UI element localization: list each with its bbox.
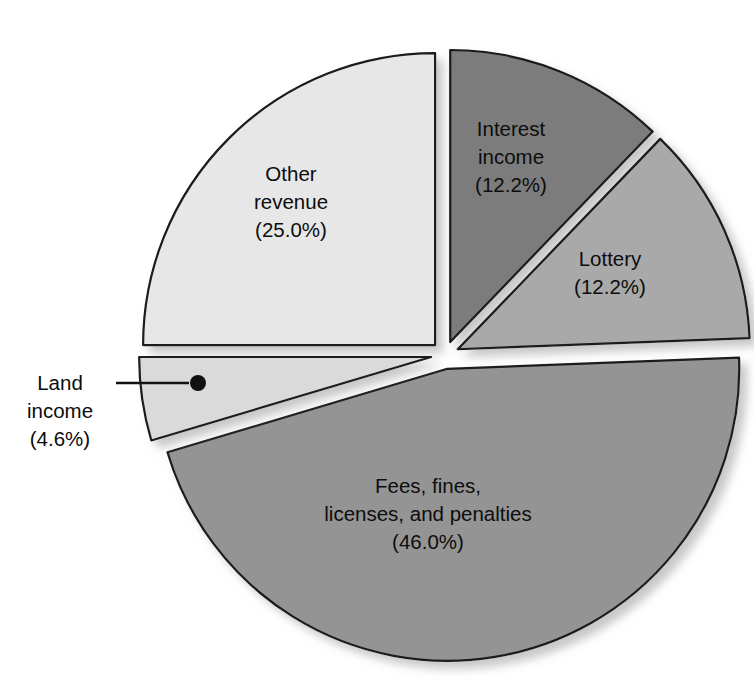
label-fees-value: (46.0%) — [392, 530, 464, 553]
label-land-income-line2: income — [27, 399, 93, 422]
label-lottery-value: (12.2%) — [574, 275, 646, 298]
label-land-income-value: (4.6%) — [30, 427, 90, 450]
pie-chart-canvas: Other revenue (25.0%) Interest income (1… — [0, 0, 754, 680]
label-land-income-line1: Land — [37, 371, 83, 394]
pie-chart-figure: Other revenue (25.0%) Interest income (1… — [0, 0, 754, 680]
label-interest-income-value: (12.2%) — [475, 173, 547, 196]
land-income-leader-dot — [190, 375, 206, 391]
label-fees-line1: Fees, fines, — [375, 474, 481, 497]
label-other-revenue-line1: Other — [265, 162, 316, 185]
label-fees-line2: licenses, and penalties — [324, 502, 531, 525]
label-interest-income-line2: income — [478, 145, 544, 168]
label-other-revenue-value: (25.0%) — [255, 218, 327, 241]
label-other-revenue-line2: revenue — [254, 190, 328, 213]
label-interest-income-line1: Interest — [477, 117, 546, 140]
label-lottery-line1: Lottery — [579, 247, 642, 270]
